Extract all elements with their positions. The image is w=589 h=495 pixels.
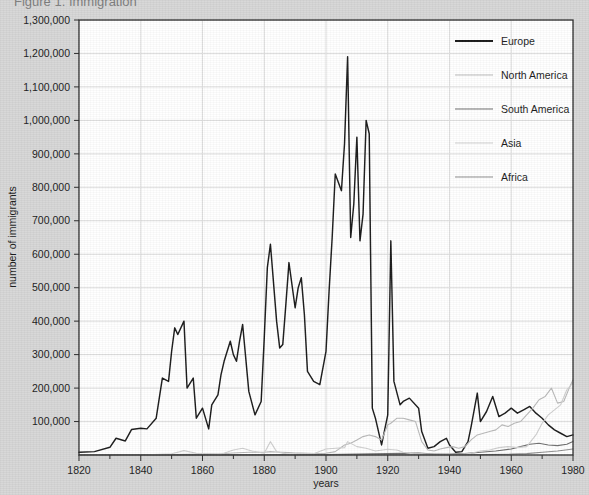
x-tick-label: 1840 [129,464,153,476]
y-tick-label: 300,000 [32,348,70,360]
x-axis: 182018401860188019001920194019601980 [67,455,585,476]
y-axis-title: number of immigrants [6,186,18,288]
y-tick-label: 100,000 [32,415,70,427]
y-tick-label: 400,000 [32,315,70,327]
y-tick-label: 900,000 [32,148,70,160]
y-tick-label: 600,000 [32,248,70,260]
x-tick-label: 1980 [561,464,585,476]
x-tick-label: 1960 [500,464,524,476]
x-tick-label: 1900 [314,464,338,476]
legend-label: South America [501,103,569,115]
legend-label: Asia [501,137,522,149]
legend-label: Africa [501,171,528,183]
x-tick-label: 1920 [376,464,400,476]
legend-label: North America [501,69,568,81]
chart-canvas: 182018401860188019001920194019601980 100… [0,0,589,495]
x-tick-label: 1820 [67,464,91,476]
clipped-figure-title: Figure 1. Immigration [14,0,137,9]
y-axis: 100,000200,000300,000400,000500,000600,0… [23,14,79,428]
x-tick-label: 1860 [191,464,215,476]
x-tick-label: 1940 [438,464,462,476]
y-tick-label: 700,000 [32,214,70,226]
y-tick-label: 1,100,000 [23,81,70,93]
y-tick-label: 800,000 [32,181,70,193]
y-tick-label: 200,000 [32,382,70,394]
legend-label: Europe [501,35,535,47]
immigration-line-chart: 182018401860188019001920194019601980 100… [0,0,589,495]
y-tick-label: 1,200,000 [23,47,70,59]
y-tick-label: 1,300,000 [23,14,70,26]
x-tick-label: 1880 [253,464,277,476]
y-tick-label: 500,000 [32,281,70,293]
y-tick-label: 1,000,000 [23,114,70,126]
x-axis-title: years [313,477,339,489]
